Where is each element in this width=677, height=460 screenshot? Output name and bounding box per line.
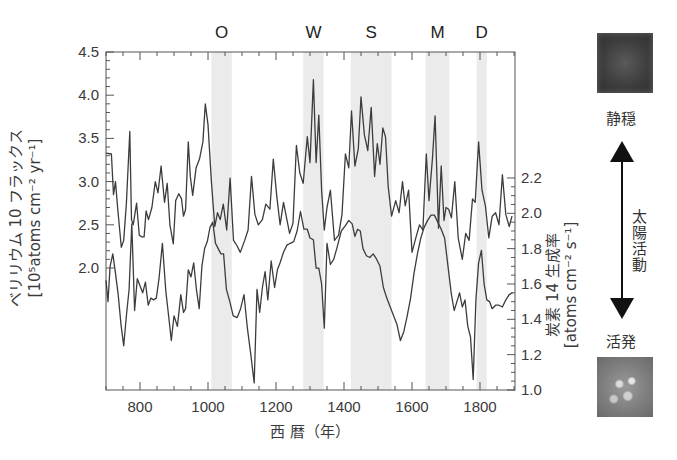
active-sun-image: [597, 357, 653, 417]
arrow-down-icon: [610, 298, 634, 319]
period-label-D: D: [476, 23, 488, 42]
left-y-axis: 2.02.53.03.54.04.5: [78, 43, 114, 276]
right-y-axis: 1.01.21.41.61.82.02.2: [507, 169, 542, 398]
period-labels: OWSMD: [215, 23, 488, 42]
x-axis-title: 西 暦（年）: [270, 423, 350, 441]
right-tick-label: 2.0: [521, 204, 542, 221]
right-tick-label: 1.0: [521, 381, 542, 398]
x-tick-label: 1000: [191, 398, 224, 415]
shaded-period-W: [303, 52, 323, 390]
period-label-S: S: [366, 23, 377, 42]
right-tick-label: 1.6: [521, 275, 542, 292]
left-tick-label: 3.5: [78, 129, 99, 146]
right-axis-title-line1: 炭素 14 生成率: [544, 233, 562, 337]
right-tick-label: 1.2: [521, 346, 542, 363]
left-tick-label: 2.5: [78, 216, 99, 233]
x-tick-label: 800: [127, 398, 152, 415]
left-tick-label: 4.0: [78, 86, 99, 103]
quiet-sun-image: [597, 33, 653, 93]
quiet-label: 静穏: [606, 107, 636, 128]
left-tick-label: 2.0: [78, 259, 99, 276]
right-tick-label: 1.8: [521, 240, 542, 257]
arrow-up-icon: [610, 141, 634, 162]
period-label-M: M: [430, 23, 444, 42]
left-axis-title-line1: ベリリウム 10 フラックス: [7, 129, 25, 308]
x-tick-label: 1800: [463, 398, 496, 415]
active-label: 活発: [606, 330, 636, 351]
left-tick-label: 4.5: [78, 43, 99, 60]
left-axis-title-line2: [10⁵atoms cm⁻² yr⁻¹]: [26, 139, 44, 298]
period-label-O: O: [215, 23, 228, 42]
x-tick-label: 1400: [327, 398, 360, 415]
shaded-period-S: [351, 52, 392, 390]
chart: OWSMD 80010001200140016001800 2.02.53.03…: [0, 0, 677, 460]
x-tick-label: 1200: [259, 398, 292, 415]
right-axis-title-line2: [atoms cm⁻² s⁻¹]: [562, 222, 580, 348]
x-tick-label: 1600: [395, 398, 428, 415]
solar-activity-label: 太陽活動: [628, 209, 649, 273]
right-tick-label: 2.2: [521, 169, 542, 186]
left-tick-label: 3.0: [78, 173, 99, 190]
right-tick-label: 1.4: [521, 310, 542, 327]
shaded-period-D: [477, 52, 487, 390]
period-label-W: W: [305, 23, 321, 42]
